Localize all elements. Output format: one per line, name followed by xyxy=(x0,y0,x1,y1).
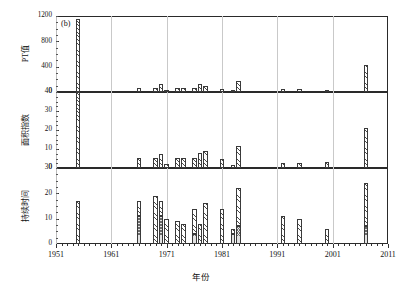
gridline-1961 xyxy=(111,92,112,168)
ytick-label-bottom-20: 20 xyxy=(8,190,52,197)
panel-top-plot-area xyxy=(56,16,388,92)
xtick-minor xyxy=(122,244,123,246)
gridline-1961 xyxy=(111,168,112,244)
xtick-label-1971: 1971 xyxy=(147,250,187,259)
bar-middle-1981 xyxy=(220,159,225,168)
xtick-minor xyxy=(62,244,63,246)
bar-bottom-top-1966 xyxy=(137,201,142,216)
xtick-major-1981 xyxy=(222,244,223,248)
xtick-minor xyxy=(299,244,300,246)
bar-middle-2007 xyxy=(364,128,369,168)
ytick-minor xyxy=(56,79,58,80)
gridline-2001 xyxy=(333,168,334,244)
xtick-minor xyxy=(128,244,129,246)
ytick-minor xyxy=(56,193,58,194)
xtick-minor xyxy=(250,244,251,246)
bar-bottom-top-1983 xyxy=(231,229,236,234)
xtick-minor xyxy=(377,244,378,246)
panel-pt-value xyxy=(56,16,388,92)
xtick-minor xyxy=(200,244,201,246)
bar-middle-1966 xyxy=(137,158,142,168)
bar-top-1970 xyxy=(159,84,164,92)
ytick-minor xyxy=(56,111,58,112)
xtick-minor xyxy=(305,244,306,246)
ytick-minor xyxy=(56,54,58,55)
ytick-minor xyxy=(56,144,58,145)
xtick-minor xyxy=(239,244,240,246)
ytick-minor xyxy=(56,225,58,226)
ytick-label-middle-40: 40 xyxy=(8,88,52,95)
ytick-minor xyxy=(56,174,58,175)
gridline-1971 xyxy=(167,16,168,92)
gridline-1991 xyxy=(277,16,278,92)
xtick-major-1961 xyxy=(111,244,112,248)
bar-middle-1970 xyxy=(159,154,164,168)
xtick-minor xyxy=(189,244,190,246)
xtick-minor xyxy=(78,244,79,246)
xtick-minor xyxy=(366,244,367,246)
bar-bottom-top-1995 xyxy=(297,219,302,244)
xtick-label-2011: 2011 xyxy=(368,250,401,259)
xtick-minor xyxy=(294,244,295,246)
gridline-1971 xyxy=(167,92,168,168)
ytick-label-bottom-30: 30 xyxy=(8,164,52,171)
xtick-minor xyxy=(156,244,157,246)
xtick-label-1961: 1961 xyxy=(91,250,131,259)
ytick-minor xyxy=(56,200,58,201)
ytick-minor xyxy=(56,154,58,155)
bar-top-1955 xyxy=(76,19,81,92)
ytick-minor xyxy=(56,168,58,169)
xtick-minor xyxy=(360,244,361,246)
bar-bottom-base-2007 xyxy=(364,226,369,244)
bar-middle-1955 xyxy=(76,92,81,168)
xtick-minor xyxy=(139,244,140,246)
xtick-minor xyxy=(183,244,184,246)
xtick-minor xyxy=(255,244,256,246)
xtick-minor xyxy=(371,244,372,246)
xtick-minor xyxy=(172,244,173,246)
panel-top-axis-title: PT值 xyxy=(19,24,30,84)
xtick-minor xyxy=(261,244,262,246)
ytick-minor xyxy=(56,92,58,93)
xtick-minor xyxy=(327,244,328,246)
xtick-minor xyxy=(211,244,212,246)
ytick-label-bottom-0: 0 xyxy=(8,240,52,247)
xtick-minor xyxy=(73,244,74,246)
ytick-minor xyxy=(56,181,58,182)
xtick-minor xyxy=(316,244,317,246)
bar-middle-1984 xyxy=(236,146,241,168)
bar-bottom-top-1969 xyxy=(153,196,158,244)
ytick-minor xyxy=(56,67,58,68)
gridline-1981 xyxy=(222,16,223,92)
ytick-minor xyxy=(56,116,58,117)
ytick-minor xyxy=(56,135,58,136)
xtick-minor xyxy=(117,244,118,246)
bar-middle-1973 xyxy=(175,158,180,168)
ytick-label-top-400: 400 xyxy=(8,63,52,70)
gridline-1991 xyxy=(277,92,278,168)
x-axis-title: 年份 xyxy=(0,270,401,282)
ytick-minor xyxy=(56,22,58,23)
xtick-minor xyxy=(205,244,206,246)
xtick-minor xyxy=(266,244,267,246)
ytick-label-top-800: 800 xyxy=(8,38,52,45)
panel-area-index xyxy=(56,92,388,168)
xtick-minor xyxy=(150,244,151,246)
bar-bottom-top-1971 xyxy=(164,219,169,244)
xtick-label-1951: 1951 xyxy=(36,250,76,259)
ytick-label-middle-30: 30 xyxy=(8,107,52,114)
ytick-minor xyxy=(56,163,58,164)
xtick-minor xyxy=(244,244,245,246)
bar-bottom-base-1983 xyxy=(231,234,236,244)
gridline-1981 xyxy=(222,92,223,168)
gridline-1991 xyxy=(277,168,278,244)
ytick-minor xyxy=(56,121,58,122)
ytick-minor xyxy=(56,219,58,220)
ytick-minor xyxy=(56,125,58,126)
panel-middle-plot-area xyxy=(56,92,388,168)
ytick-minor xyxy=(56,106,58,107)
bar-bottom-top-2000 xyxy=(325,229,330,244)
xtick-minor xyxy=(161,244,162,246)
ytick-minor xyxy=(56,206,58,207)
ytick-minor xyxy=(56,140,58,141)
